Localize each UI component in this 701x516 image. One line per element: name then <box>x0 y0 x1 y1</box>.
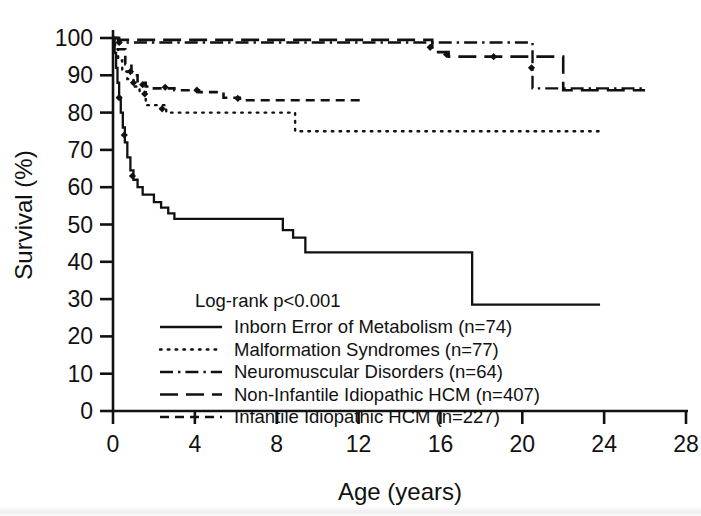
y-axis-tick-labels: 0102030405060708090100 <box>55 25 93 424</box>
x-tick-label: 16 <box>428 431 454 457</box>
page-scan-artifact <box>0 506 701 516</box>
survival-curve-2 <box>113 38 645 88</box>
censor-mark <box>159 105 166 112</box>
x-tick-label: 12 <box>346 431 372 457</box>
logrank-annotation: Log-rank p<0.001 <box>195 290 341 311</box>
x-tick-label: 28 <box>673 431 699 457</box>
y-tick-label: 90 <box>67 62 93 88</box>
y-tick-label: 80 <box>67 100 93 126</box>
x-axis-title: Age (years) <box>338 478 462 505</box>
figure-container: 0102030405060708090100 0481216202428 Sur… <box>0 0 701 516</box>
survival-curve-0 <box>113 38 600 305</box>
x-tick-label: 8 <box>270 431 283 457</box>
legend-label-1: Malformation Syndromes (n=77) <box>234 339 499 360</box>
censor-marks <box>116 39 536 180</box>
y-tick-label: 70 <box>67 137 93 163</box>
legend-label-2: Neuromuscular Disorders (n=64) <box>234 361 503 382</box>
survival-chart: 0102030405060708090100 0481216202428 Sur… <box>0 0 701 516</box>
y-tick-label: 40 <box>67 249 93 275</box>
x-tick-label: 0 <box>107 431 120 457</box>
x-tick-label: 4 <box>188 431 201 457</box>
y-axis-title: Survival (%) <box>10 150 37 279</box>
censor-mark <box>234 95 241 102</box>
y-tick-label: 60 <box>67 174 93 200</box>
censor-mark <box>121 131 128 138</box>
censor-mark <box>130 79 137 86</box>
legend-label-0: Inborn Error of Metabolism (n=74) <box>234 316 512 337</box>
survival-curve-4 <box>113 38 365 100</box>
survival-curve-3 <box>113 38 645 90</box>
y-tick-label: 10 <box>67 361 93 387</box>
y-axis-ticks <box>100 38 113 411</box>
x-axis-tick-labels: 0481216202428 <box>107 431 699 457</box>
x-tick-label: 24 <box>591 431 617 457</box>
y-tick-label: 20 <box>67 323 93 349</box>
censor-mark <box>127 68 134 75</box>
censor-mark <box>129 172 136 179</box>
censor-mark <box>141 90 148 97</box>
legend-label-4: Infantile Idiopathic HCM (n=227) <box>234 406 500 427</box>
y-tick-label: 50 <box>67 212 93 238</box>
survival-curve-1 <box>113 38 600 131</box>
censor-mark <box>528 64 535 71</box>
y-tick-label: 100 <box>55 25 93 51</box>
x-tick-label: 20 <box>509 431 535 457</box>
censor-mark <box>490 53 497 60</box>
censor-mark <box>162 84 169 91</box>
survival-curves <box>113 38 645 305</box>
y-tick-label: 30 <box>67 286 93 312</box>
legend-label-3: Non-Infantile Idiopathic HCM (n=407) <box>234 384 540 405</box>
y-tick-label: 0 <box>80 398 93 424</box>
